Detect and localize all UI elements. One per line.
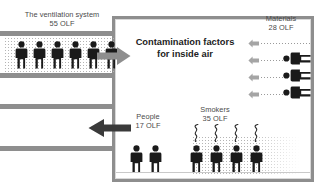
materials-emission-arrow	[248, 56, 259, 65]
supply-duct-top-wall	[0, 31, 114, 36]
materials-emission-arrow	[248, 90, 259, 99]
exhaust-duct-bottom-wall	[0, 146, 114, 151]
supply-duct-bottom-wall	[0, 73, 114, 78]
person-figure-smoker	[190, 145, 203, 173]
person-figure	[33, 41, 46, 69]
person-figure	[51, 41, 64, 69]
smoke-squiggle-icon	[252, 124, 260, 142]
smoke-squiggle-icon	[212, 124, 220, 142]
person-figure-smoker	[250, 145, 263, 173]
exhaust-duct-top-wall	[0, 104, 114, 109]
materials-emission-arrow	[248, 73, 259, 82]
people-label: People 17 OLF	[122, 112, 174, 130]
smoke-haze-pattern	[192, 136, 300, 174]
smokers-label: Smokers 35 OLF	[184, 105, 246, 123]
materials-emission-trail	[260, 42, 310, 43]
person-figure-sideways	[283, 86, 311, 99]
person-figure-sideways	[283, 69, 311, 82]
ventilation-system-label: The ventilation system 55 OLF	[12, 10, 112, 28]
smoke-squiggle-icon	[232, 124, 240, 142]
smoke-squiggle-icon	[192, 124, 200, 142]
person-figure	[15, 41, 28, 69]
materials-label: Materials 28 OLF	[252, 14, 310, 32]
center-title: Contamination factors for inside air	[126, 36, 244, 60]
person-figure-smoker	[230, 145, 243, 173]
diagram-canvas: The ventilation system 55 OLF Contaminat…	[0, 0, 316, 187]
materials-emission-arrow	[248, 39, 259, 48]
room-floor-line	[116, 172, 310, 173]
person-figure-sideways	[283, 52, 311, 65]
person-figure	[130, 145, 143, 173]
person-figure-smoker	[210, 145, 223, 173]
person-figure	[69, 41, 82, 69]
person-figure	[149, 145, 162, 173]
